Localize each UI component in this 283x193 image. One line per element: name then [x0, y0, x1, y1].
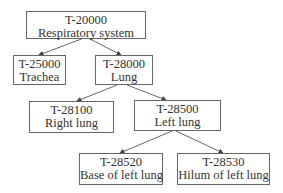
- node-label: Base of left lung: [80, 169, 162, 182]
- node-label: Lung: [96, 71, 152, 84]
- node-hilum-of-left-lung: T-28530 Hilum of left lung: [177, 153, 270, 185]
- node-trachea: T-25000 Trachea: [13, 55, 66, 85]
- node-right-lung: T-28100 Right lung: [29, 101, 114, 133]
- node-label: Respiratory system: [27, 27, 145, 40]
- node-label: Left lung: [135, 116, 220, 129]
- edge-respiratory-trachea: [39, 38, 84, 55]
- node-left-lung: T-28500 Left lung: [134, 100, 221, 131]
- edge-leftlung-base: [120, 131, 172, 153]
- edge-leftlung-hilum: [176, 131, 223, 153]
- edge-lung-leftlung: [127, 85, 166, 100]
- edge-respiratory-lung: [88, 38, 121, 55]
- node-lung: T-28000 Lung: [95, 55, 153, 85]
- node-label: Hilum of left lung: [178, 169, 269, 182]
- node-label: Trachea: [14, 71, 65, 84]
- edge-lung-rightlung: [77, 85, 117, 101]
- node-respiratory-system: T-20000 Respiratory system: [26, 11, 146, 39]
- node-label: Right lung: [30, 117, 113, 130]
- node-base-of-left-lung: T-28520 Base of left lung: [79, 153, 163, 185]
